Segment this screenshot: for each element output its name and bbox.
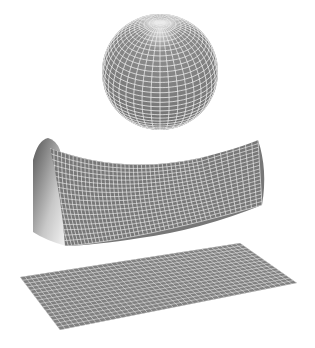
curvature-diagram [0, 0, 315, 348]
saddle-surface [33, 138, 264, 246]
flat-plane [20, 243, 297, 330]
sphere [102, 14, 218, 130]
